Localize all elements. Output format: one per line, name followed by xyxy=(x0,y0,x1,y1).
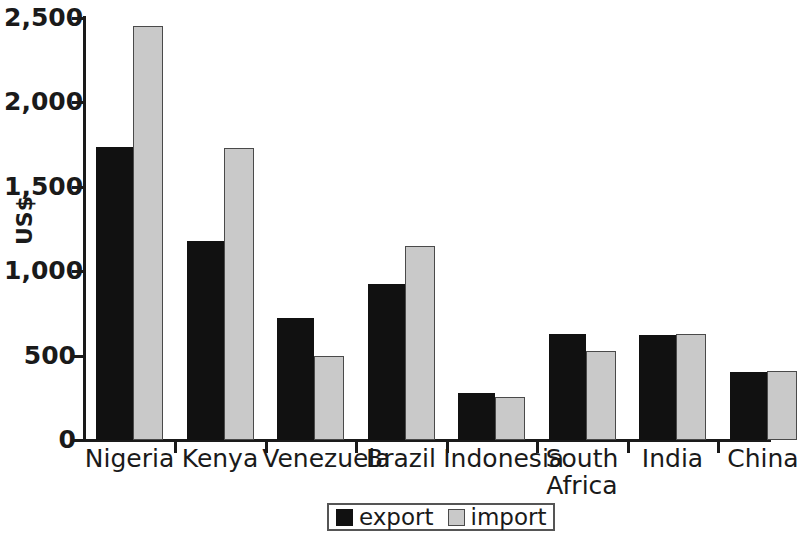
bar-import xyxy=(676,334,706,440)
bar-group xyxy=(368,18,435,440)
y-axis-tick-label: 2,000 xyxy=(4,89,76,114)
bar-group xyxy=(549,18,616,440)
bar-import xyxy=(133,26,163,440)
x-axis-category-label: Kenya xyxy=(172,446,269,473)
x-axis-category-label: Indonesia xyxy=(443,446,540,473)
bar-export xyxy=(96,147,133,440)
y-axis-tick-mark xyxy=(72,270,84,273)
bar-group xyxy=(96,18,163,440)
bar-export xyxy=(277,318,314,440)
legend-entry-export: export xyxy=(336,506,434,529)
x-axis-category-label: Venezuela xyxy=(262,446,359,473)
chart-legend: exportimport xyxy=(327,503,555,531)
x-axis-category-label: India xyxy=(624,446,721,473)
bar-export xyxy=(458,393,495,440)
y-axis-tick-label: 500 xyxy=(4,343,76,368)
bar-export xyxy=(639,335,676,440)
bar-group xyxy=(639,18,706,440)
legend-entry-import: import xyxy=(448,506,547,529)
y-axis-tick-label: 1,500 xyxy=(4,174,76,199)
x-axis-category-label: Brazil xyxy=(353,446,450,473)
legend-label: export xyxy=(359,506,434,529)
bar-export xyxy=(368,284,405,440)
y-axis-tick-label: 1,000 xyxy=(4,258,76,283)
legend-label: import xyxy=(471,506,547,529)
bar-import xyxy=(767,371,797,440)
y-axis-tick-mark xyxy=(72,439,84,442)
y-axis-tick-mark xyxy=(72,355,84,358)
y-axis-tick-mark xyxy=(72,101,84,104)
plot-area xyxy=(83,18,771,440)
bar-export xyxy=(730,372,767,440)
bar-group xyxy=(187,18,254,440)
bar-export xyxy=(549,334,586,440)
bar-import xyxy=(224,148,254,440)
bar-export xyxy=(187,241,224,440)
bar-import xyxy=(586,351,616,440)
black-square-icon xyxy=(336,509,353,526)
y-axis-tick-label: 0 xyxy=(4,427,76,452)
gray-square-icon xyxy=(448,509,465,526)
bar-group xyxy=(458,18,525,440)
bar-group xyxy=(730,18,797,440)
x-axis-category-label: Nigeria xyxy=(81,446,178,473)
y-axis-tick-mark xyxy=(72,17,84,20)
bar-import xyxy=(495,397,525,440)
x-axis-category-label: China xyxy=(715,446,801,473)
bar-import xyxy=(314,356,344,440)
bar-group xyxy=(277,18,344,440)
y-axis-tick-label: 2,500 xyxy=(4,5,76,30)
y-axis-tick-mark xyxy=(72,186,84,189)
y-axis-tick-labels: 05001,0001,5002,0002,500 xyxy=(0,0,76,533)
bar-import xyxy=(405,246,435,440)
x-axis-category-label: South Africa xyxy=(534,446,631,499)
